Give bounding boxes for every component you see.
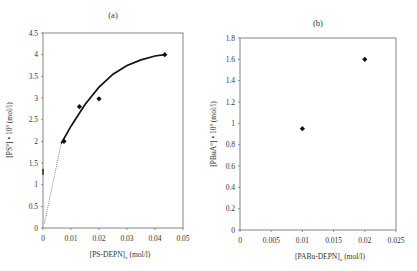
y-tick-label: 0: [34, 224, 38, 233]
x-tick-label: 0.015: [325, 236, 342, 245]
y-tick-label: 3.5: [29, 72, 39, 81]
data-point-diamond: [96, 96, 101, 101]
extrapolation-line: [44, 144, 61, 224]
y-tick-label: 2: [34, 137, 38, 146]
y-tick-label: 0: [231, 226, 235, 235]
y-tick-label: 1: [231, 119, 235, 128]
y-tick-label: 1.6: [226, 55, 236, 64]
x-tick-label: 0: [238, 236, 242, 245]
x-tick-label: 0.025: [388, 236, 405, 245]
x-axis-label: [PABu-DEPN]o (mol/l): [295, 252, 365, 262]
y-tick-label: 1.4: [226, 76, 236, 85]
y-axis-label: [PBuA°] • 108 (mol/l): [209, 101, 218, 167]
x-tick-label: 0.04: [148, 234, 161, 243]
y-tick-label: 4: [34, 50, 38, 59]
x-tick-label: 0.01: [296, 236, 309, 245]
chart-b-svg: (b)00.20.40.60.811.21.41.61.800.0050.010…: [208, 0, 417, 271]
y-tick-label: 0.5: [29, 202, 39, 211]
x-tick-label: 0: [41, 234, 45, 243]
x-tick-label: 0.05: [176, 234, 189, 243]
chart-panel-b: (b)00.20.40.60.811.21.41.61.800.0050.010…: [208, 0, 417, 271]
y-tick-label: 1: [34, 180, 38, 189]
x-tick-label: 0.03: [120, 234, 133, 243]
y-tick-label: 2.5: [29, 115, 39, 124]
y-tick-label: 3: [34, 94, 38, 103]
data-point-diamond: [77, 104, 82, 109]
x-tick-label: 0.01: [64, 234, 77, 243]
x-axis-label: [PS-DEPN]o (mol/l): [90, 250, 151, 260]
chart-title: (a): [108, 10, 118, 20]
plot-frame: [240, 38, 396, 230]
y-tick-label: 0.6: [226, 162, 236, 171]
plot-frame: [43, 33, 183, 228]
data-point-diamond: [362, 57, 367, 62]
x-tick-label: 0.02: [358, 236, 371, 245]
chart-title: (b): [313, 18, 323, 28]
y-tick-label: 0.2: [226, 204, 236, 213]
chart-panel-a: (a)00.511.522.533.544.500.010.020.030.04…: [0, 0, 208, 271]
chart-a-svg: (a)00.511.522.533.544.500.010.020.030.04…: [0, 0, 208, 271]
y-tick-label: 0.8: [226, 140, 236, 149]
data-point-diamond: [300, 126, 305, 131]
y-axis-label: [PS°] • 108 (mol/l): [5, 102, 14, 158]
fit-curve: [61, 55, 165, 144]
x-tick-label: 0.02: [92, 234, 105, 243]
y-tick-label: 1.2: [226, 98, 236, 107]
y-tick-label: 0.4: [226, 183, 236, 192]
y-tick-label: 1.5: [29, 159, 39, 168]
x-tick-label: 0.005: [263, 236, 280, 245]
y-tick-label: 1.8: [226, 34, 236, 43]
y-tick-label: 4.5: [29, 29, 39, 38]
